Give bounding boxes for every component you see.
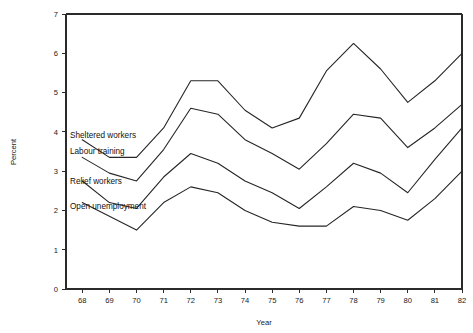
- series-label-open-unemployment: Open unemployment: [70, 202, 147, 211]
- x-axis-title: Year: [256, 318, 272, 327]
- y-axis-tick-labels: 01234567: [54, 10, 58, 294]
- x-tick-label: 72: [187, 296, 195, 305]
- y-tick-label: 3: [54, 167, 58, 176]
- y-tick-label: 4: [54, 128, 58, 137]
- x-tick-label: 82: [458, 296, 466, 305]
- series-line-sheltered-workers: [82, 43, 462, 157]
- series-label-sheltered-workers: Sheltered workers: [70, 131, 136, 140]
- x-tick-label: 73: [214, 296, 222, 305]
- series-label-relief-workers: Relief workers: [70, 177, 122, 186]
- x-tick-label: 79: [376, 296, 384, 305]
- series-label-labour-training: Labour training: [70, 147, 125, 156]
- y-axis-ticks: [62, 14, 66, 289]
- x-tick-label: 76: [295, 296, 303, 305]
- line-chart: 01234567 686970717273747576777879808182 …: [0, 0, 473, 333]
- x-tick-label: 71: [159, 296, 167, 305]
- chart-frame: [66, 14, 462, 289]
- y-tick-label: 1: [54, 246, 58, 255]
- y-axis-title: Percent: [9, 138, 18, 165]
- chart-container: 01234567 686970717273747576777879808182 …: [0, 0, 473, 333]
- x-tick-label: 77: [322, 296, 330, 305]
- x-tick-label: 74: [241, 296, 249, 305]
- x-tick-label: 69: [105, 296, 113, 305]
- x-tick-label: 68: [78, 296, 86, 305]
- series-inline-labels: Sheltered workersLabour trainingRelief w…: [70, 131, 147, 211]
- x-tick-label: 78: [349, 296, 357, 305]
- x-axis-ticks: [82, 289, 462, 293]
- series-line-open-unemployment: [82, 171, 462, 230]
- x-tick-label: 75: [268, 296, 276, 305]
- y-tick-label: 2: [54, 206, 58, 215]
- x-tick-label: 70: [132, 296, 140, 305]
- y-tick-label: 0: [54, 285, 58, 294]
- x-tick-label: 81: [431, 296, 439, 305]
- series-line-labour-training: [82, 104, 462, 181]
- y-tick-label: 6: [54, 49, 58, 58]
- y-tick-label: 7: [54, 10, 58, 19]
- y-tick-label: 5: [54, 88, 58, 97]
- series-line-relief-workers: [82, 128, 462, 209]
- x-tick-label: 80: [404, 296, 412, 305]
- x-axis-tick-labels: 686970717273747576777879808182: [78, 296, 466, 305]
